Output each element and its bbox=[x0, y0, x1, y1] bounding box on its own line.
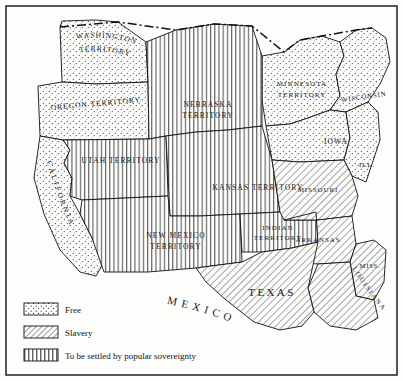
label-kansas-territory: KANSAS TERRITORY bbox=[213, 183, 304, 192]
label-arkansas: ARKANSAS bbox=[296, 236, 341, 244]
vertical-line-swatch bbox=[24, 349, 58, 361]
label-nebraska-line2: TERRITORY bbox=[182, 111, 233, 120]
map-svg: BRITISH POSSESSIONS WASHINGTON TERRITORY… bbox=[0, 0, 403, 381]
legend-label-free: Free bbox=[65, 305, 81, 315]
label-minnesota-line2: TERRITORY bbox=[278, 91, 327, 99]
label-utah-territory: UTAH TERRITORY bbox=[82, 156, 161, 165]
label-mississippi: MISS. bbox=[360, 262, 381, 269]
label-nebraska-line1: NEBRASKA bbox=[183, 100, 232, 109]
label-new-mexico-line1: NEW MEXICO bbox=[146, 231, 205, 240]
label-indian-line1: INDIAN bbox=[262, 224, 293, 232]
label-minnesota-line1: MINNESOTA bbox=[277, 80, 328, 88]
region-kansas-territory bbox=[166, 126, 280, 216]
region-utah-territory bbox=[63, 136, 168, 200]
label-missouri: MISSOURI bbox=[298, 186, 339, 194]
stipple-swatch bbox=[24, 303, 58, 315]
label-illinois: ILL. bbox=[359, 161, 375, 169]
label-iowa: IOWA bbox=[324, 137, 348, 146]
diagonal-hatch-swatch bbox=[24, 326, 58, 338]
legend-label-slavery: Slavery bbox=[65, 328, 93, 338]
region-nebraska-territory bbox=[146, 24, 262, 139]
label-texas: TEXAS bbox=[248, 286, 295, 298]
map-figure: BRITISH POSSESSIONS WASHINGTON TERRITORY… bbox=[0, 0, 403, 381]
label-new-mexico-line2: TERRITORY bbox=[150, 242, 201, 251]
legend-label-popular-sovereignty: To be settled by popular sovereignty bbox=[65, 351, 197, 361]
